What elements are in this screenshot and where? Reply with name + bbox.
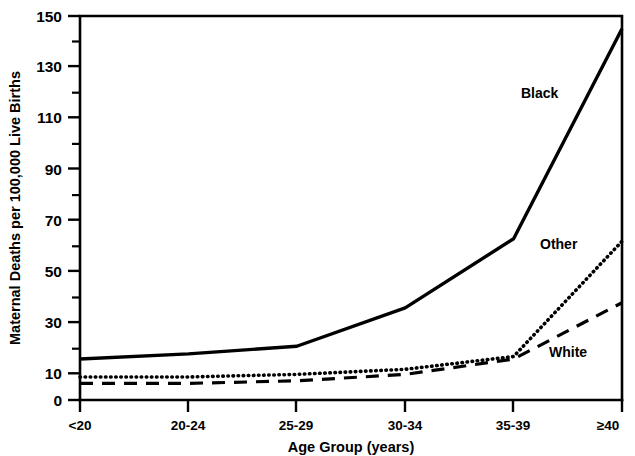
- x-label-35-39: 35-39: [496, 418, 531, 433]
- y-label-130: 130: [36, 58, 62, 75]
- y-label-30: 30: [45, 314, 62, 331]
- x-axis-ticks: [80, 400, 622, 412]
- x-axis-tick-labels: <20 20-24 25-29 30-34 35-39 ≥40: [69, 418, 620, 433]
- x-axis-title: Age Group (years): [288, 439, 415, 455]
- axis-box: [80, 16, 622, 400]
- series-label-black: Black: [521, 85, 559, 101]
- y-label-0: 0: [53, 392, 62, 409]
- series-label-other: Other: [540, 236, 578, 252]
- series-line-black: [80, 29, 622, 359]
- y-axis-major-ticks: [68, 16, 80, 400]
- x-label-20-24: 20-24: [171, 418, 206, 433]
- maternal-mortality-line-chart: 150 130 110 90 70 50 30 10 0 Maternal De…: [0, 0, 635, 456]
- data-series-group: [80, 29, 622, 384]
- y-label-10: 10: [45, 365, 62, 382]
- y-label-150: 150: [36, 8, 62, 25]
- y-label-70: 70: [45, 212, 62, 229]
- series-label-white: White: [549, 344, 587, 360]
- chart-canvas: 150 130 110 90 70 50 30 10 0 Maternal De…: [0, 0, 635, 456]
- x-label-under-20: <20: [69, 418, 92, 433]
- x-label-40-plus: ≥40: [597, 418, 619, 433]
- y-label-90: 90: [45, 161, 62, 178]
- x-label-30-34: 30-34: [388, 418, 423, 433]
- series-annotations: Black Other White: [521, 85, 587, 360]
- y-label-50: 50: [45, 263, 62, 280]
- y-axis-title: Maternal Deaths per 100,000 Live Births: [7, 71, 23, 345]
- plot-frame: [80, 16, 622, 400]
- x-label-25-29: 25-29: [279, 418, 314, 433]
- y-label-110: 110: [37, 109, 62, 126]
- y-axis-tick-labels: 150 130 110 90 70 50 30 10 0: [36, 8, 62, 409]
